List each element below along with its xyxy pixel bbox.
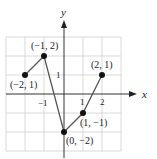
label-point-0-neg2: (0, −2) — [66, 135, 93, 147]
point-1-neg1 — [80, 110, 86, 116]
point-2-1 — [99, 72, 105, 78]
coordinate-graph: x y −1 1 2 1 (−1, 2) (−2, 1) (2, 1) (1, … — [0, 0, 157, 159]
x-axis-arrow-icon — [129, 91, 137, 97]
tick-x-1: 1 — [80, 97, 85, 107]
label-point-neg1-2: (−1, 2) — [31, 40, 58, 52]
y-axis-arrow-icon — [61, 20, 67, 28]
x-axis-label: x — [141, 88, 147, 100]
point-neg1-2 — [41, 53, 47, 59]
y-axis-label: y — [60, 6, 66, 18]
point-neg2-1 — [22, 72, 28, 78]
tick-x-2: 2 — [100, 97, 105, 107]
label-point-neg2-1: (−2, 1) — [10, 79, 37, 91]
label-point-1-neg1: (1, −1) — [80, 117, 107, 129]
tick-x-neg1: −1 — [38, 98, 48, 108]
label-point-2-1: (2, 1) — [91, 59, 113, 71]
tick-y-1: 1 — [56, 70, 61, 80]
